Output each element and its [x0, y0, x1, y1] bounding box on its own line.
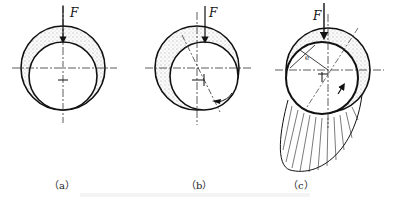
panel-a: F [12, 5, 117, 123]
panel-b: F [145, 6, 252, 125]
caption-c: （c） [288, 177, 314, 192]
force-label: F [312, 9, 322, 23]
panel-c: F e [275, 3, 384, 172]
journal-bearing-diagram: F F [0, 0, 394, 205]
eccentricity-label: e [305, 54, 309, 62]
faint-footer-artifact [80, 193, 310, 197]
caption-a: （a） [49, 177, 75, 192]
caption-b: （b） [186, 177, 212, 192]
force-label: F [208, 6, 218, 20]
pressure-hatch-lines [283, 106, 358, 172]
force-label: F [69, 6, 79, 20]
